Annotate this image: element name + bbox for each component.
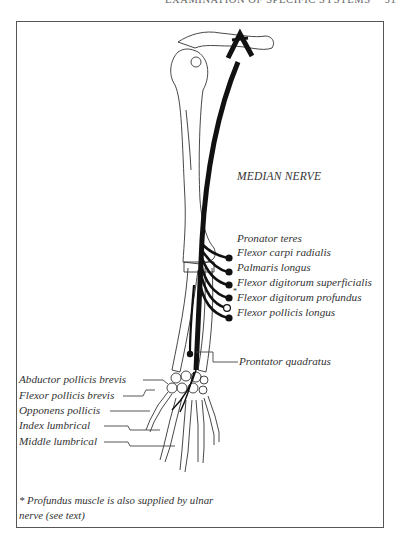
label-flexor-carpi-radialis: Flexor carpi radialis (237, 246, 331, 259)
label-pronator-teres: Pronator teres (237, 232, 302, 245)
label-flexor-digitorum-profundus: Flexor digitorum profundus (237, 291, 362, 304)
label-flexor-pollicis-longus: Flexor pollicis longus (237, 306, 335, 319)
finger-ring-icon (196, 400, 204, 463)
humerus-icon (171, 49, 216, 264)
label-flexor-pollicis-brevis: Flexor pollicis brevis (19, 389, 114, 402)
radius-icon (172, 268, 198, 372)
open-marker-icon (224, 305, 231, 312)
figure-title: MEDIAN NERVE (237, 170, 321, 183)
clavicle-icon (178, 32, 274, 49)
label-index-lumbrical: Index lumbrical (19, 419, 90, 432)
label-flexor-digitorum-superficialis: Flexor digitorum superficialis (237, 276, 372, 289)
figure-footnote: * Profundus muscle is also supplied by u… (19, 493, 279, 523)
finger-index-icon (160, 398, 182, 462)
footnote-line-2: nerve (see text) (19, 508, 279, 523)
finger-little-icon (204, 396, 219, 445)
finger-middle-icon (180, 400, 192, 472)
label-opponens-pollicis: Opponens pollicis (19, 404, 100, 417)
label-abductor-pollicis-brevis: Abductor pollicis brevis (19, 373, 126, 386)
footnote-line-1: * Profundus muscle is also supplied by u… (19, 493, 279, 508)
label-middle-lumbrical: Middle lumbrical (19, 435, 97, 448)
leader-lines (104, 352, 238, 446)
label-palmaris-longus: Palmaris longus (237, 261, 311, 274)
label-pronator-quadratus: Prontator quadratus (239, 355, 331, 368)
arm-illustration (0, 0, 404, 545)
